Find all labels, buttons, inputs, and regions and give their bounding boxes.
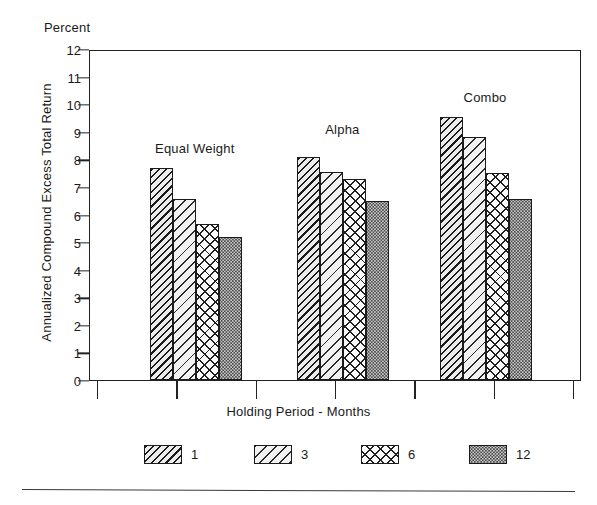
- x-axis-tick-mark: [256, 381, 257, 399]
- y-axis-unit-label: Percent: [44, 20, 90, 35]
- y-axis-tick-mark: [78, 49, 89, 50]
- y-axis-tick-mark: [78, 325, 89, 326]
- group-label-equal-weight: Equal Weight: [155, 141, 235, 156]
- x-axis-tick-mark: [97, 381, 98, 399]
- y-axis-tick-mark: [78, 215, 89, 216]
- legend-item-6m[interactable]: 6: [361, 443, 415, 465]
- group-label-alpha: Alpha: [325, 122, 359, 137]
- bar-equal-weight-1m: [150, 168, 173, 380]
- bar-combo-3m: [463, 137, 486, 380]
- bar-combo-6m: [486, 173, 509, 380]
- bar-combo-1m: [440, 117, 463, 380]
- y-axis-tick-mark: [78, 105, 89, 106]
- y-axis-tick-mark: [78, 132, 89, 133]
- legend-swatch-light-diagonal-hatch: [254, 445, 292, 464]
- legend-label: 6: [408, 447, 415, 462]
- y-axis-title: Annualized Compound Excess Total Return: [39, 43, 54, 383]
- y-axis-tick-mark: [78, 270, 89, 271]
- y-axis-tick-mark: [78, 353, 89, 354]
- legend-swatch-dark-stipple: [469, 445, 507, 464]
- y-axis-tick-mark: [78, 77, 89, 78]
- bar-equal-weight-12m: [219, 237, 242, 380]
- legend-label: 1: [191, 447, 198, 462]
- x-axis-title: Holding Period - Months: [0, 404, 597, 419]
- bar-alpha-6m: [343, 179, 366, 380]
- y-axis-tick-mark: [78, 242, 89, 243]
- group-label-combo: Combo: [464, 90, 507, 105]
- bar-equal-weight-6m: [196, 224, 219, 380]
- chart-figure: Percent Annualized Compound Excess Total…: [0, 0, 597, 505]
- legend-item-3m[interactable]: 3: [254, 443, 308, 465]
- bar-alpha-12m: [366, 201, 389, 380]
- y-axis-tick-mark: [78, 298, 89, 299]
- bottom-divider: [22, 489, 575, 492]
- x-axis-tick-mark: [335, 381, 336, 399]
- bar-equal-weight-3m: [173, 199, 196, 380]
- plot-area: [89, 50, 581, 381]
- x-axis-tick-mark: [494, 381, 495, 399]
- chart-legend: 13612: [89, 443, 509, 469]
- legend-label: 12: [516, 447, 530, 462]
- legend-item-12m[interactable]: 12: [469, 443, 530, 465]
- legend-item-1m[interactable]: 1: [144, 443, 198, 465]
- y-axis-tick-mark: [78, 187, 89, 188]
- bar-alpha-3m: [320, 172, 343, 380]
- legend-swatch-dense-diagonal-hatch: [144, 445, 182, 464]
- y-axis-tick-mark: [78, 380, 89, 381]
- x-axis-tick-mark: [176, 381, 177, 399]
- bar-alpha-1m: [297, 157, 320, 380]
- x-axis-tick-mark: [414, 381, 415, 399]
- legend-swatch-diamond-crosshatch: [361, 445, 399, 464]
- legend-label: 3: [301, 447, 308, 462]
- y-axis-tick-mark: [78, 160, 89, 161]
- bar-combo-12m: [509, 199, 532, 380]
- x-axis-tick-mark: [573, 381, 574, 399]
